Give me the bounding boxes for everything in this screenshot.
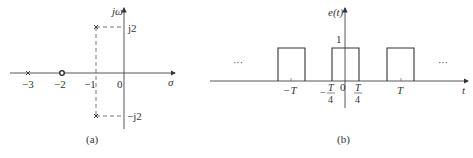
caption-a: (a): [86, 133, 99, 146]
ellipsis-left: ···: [233, 57, 243, 68]
t-label: t: [462, 84, 466, 96]
tick-label-minus-T: −T: [283, 84, 297, 96]
tick-label-T: T: [397, 84, 404, 96]
amplitude-label: 1: [336, 33, 342, 45]
e-t-label: e(t): [328, 6, 344, 19]
imag-label-minus-j2: −j2: [127, 110, 142, 122]
pulse-train-plot: e(t) t 1 −T T 0 − T 4 T 4 ··· ··· (b): [210, 6, 468, 146]
zero-marker-minus2: [60, 71, 65, 76]
origin-label-b: 0: [340, 81, 346, 93]
tick-label-minus2: −2: [54, 78, 66, 90]
pulse-minus-T: [278, 48, 305, 81]
origin-label: 0: [117, 78, 123, 90]
svg-text:−: −: [320, 87, 326, 98]
pulse-zero: [332, 48, 359, 81]
svg-text:T: T: [328, 82, 335, 93]
tick-label-minus1: −1: [84, 78, 96, 90]
svg-text:T: T: [355, 82, 362, 93]
figure-canvas: jω σ 0 −3 −2 −1 j2 −j2 (a) e(t) t 1: [0, 0, 473, 158]
svg-text:4: 4: [355, 94, 360, 105]
sigma-label: σ: [168, 76, 174, 88]
imag-label-j2: j2: [127, 22, 137, 34]
pole-zero-plot: jω σ 0 −3 −2 −1 j2 −j2 (a): [10, 5, 175, 146]
jomega-label: jω: [110, 5, 123, 17]
tick-label-minus3: −3: [22, 78, 34, 90]
svg-text:4: 4: [328, 94, 333, 105]
ellipsis-right: ···: [438, 57, 448, 68]
caption-b: (b): [337, 133, 350, 146]
pulse-T: [387, 48, 414, 81]
tick-label-minus-T-over-4: − T 4: [320, 82, 335, 105]
tick-label-T-over-4: T 4: [354, 82, 362, 105]
